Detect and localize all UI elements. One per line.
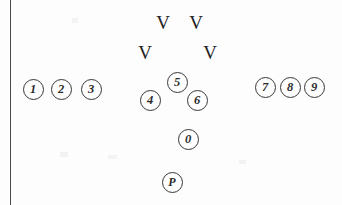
player-label: 4 [147, 93, 153, 106]
player-marker-0: 0 [178, 129, 199, 150]
player-marker-6: 6 [187, 90, 208, 111]
player-label: P [168, 176, 175, 188]
defender-mark: V [138, 43, 152, 62]
formation-diagram: VVVV 1234567890P [0, 0, 342, 205]
player-marker-8: 8 [280, 77, 301, 98]
player-label: 7 [262, 80, 268, 93]
player-marker-p: P [162, 172, 183, 193]
player-label: 3 [88, 82, 94, 95]
player-label: 8 [287, 80, 293, 93]
player-label: 0 [185, 132, 191, 145]
defender-mark: V [203, 43, 217, 62]
defender-mark: V [156, 13, 170, 32]
player-label: 5 [174, 75, 180, 88]
scan-speckle [239, 160, 246, 164]
player-marker-7: 7 [255, 77, 276, 98]
scan-speckle [60, 152, 68, 157]
player-marker-2: 2 [51, 79, 72, 100]
scan-speckle [108, 155, 117, 159]
scan-speckle [72, 18, 78, 23]
player-marker-9: 9 [304, 77, 325, 98]
player-marker-3: 3 [81, 79, 102, 100]
player-marker-1: 1 [23, 79, 44, 100]
player-marker-4: 4 [140, 90, 161, 111]
left-sideline [10, 0, 11, 205]
player-label: 1 [30, 82, 36, 95]
player-label: 9 [311, 80, 317, 93]
player-label: 6 [194, 93, 200, 106]
player-label: 2 [58, 82, 64, 95]
player-marker-5: 5 [167, 72, 188, 93]
defender-mark: V [189, 13, 203, 32]
